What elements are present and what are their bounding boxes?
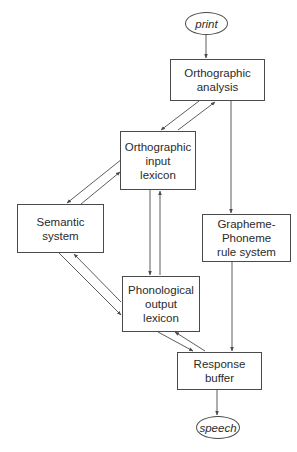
orthographic-analysis-label: Orthographic analysis: [184, 66, 250, 94]
phonological-output-lexicon-label: Phonological output lexicon: [128, 283, 194, 325]
edge-input-lexicon-to-orthographic-analysis: [178, 102, 215, 130]
response-buffer-box: Response buffer: [177, 352, 262, 390]
grapheme-phoneme-rule-system-box: Grapheme- Phoneme rule system: [202, 214, 291, 262]
orthographic-input-lexicon-box: Orthographic input lexicon: [120, 131, 196, 190]
speech-label: speech: [199, 421, 236, 435]
edge-output-lexicon-to-response-buffer: [158, 332, 193, 351]
response-buffer-label: Response buffer: [194, 357, 246, 385]
edge-semantic-to-output-lexicon: [59, 253, 121, 315]
edge-semantic-to-input-lexicon: [81, 172, 120, 204]
edge-orthographic-analysis-to-input-lexicon: [161, 101, 199, 130]
edge-input-lexicon-to-semantic: [67, 159, 122, 203]
semantic-system-box: Semantic system: [17, 204, 104, 253]
orthographic-input-lexicon-label: Orthographic input lexicon: [125, 140, 191, 182]
grapheme-phoneme-rule-system-label: Grapheme- Phoneme rule system: [217, 217, 276, 259]
print-label: print: [195, 17, 217, 31]
phonological-output-lexicon-box: Phonological output lexicon: [122, 276, 200, 332]
speech-node: speech: [196, 416, 240, 439]
print-node: print: [185, 12, 228, 35]
edge-output-lexicon-to-semantic: [74, 254, 121, 302]
edge-response-buffer-to-output-lexicon: [175, 332, 205, 351]
orthographic-analysis-box: Orthographic analysis: [170, 59, 265, 101]
semantic-system-label: Semantic system: [37, 215, 85, 243]
